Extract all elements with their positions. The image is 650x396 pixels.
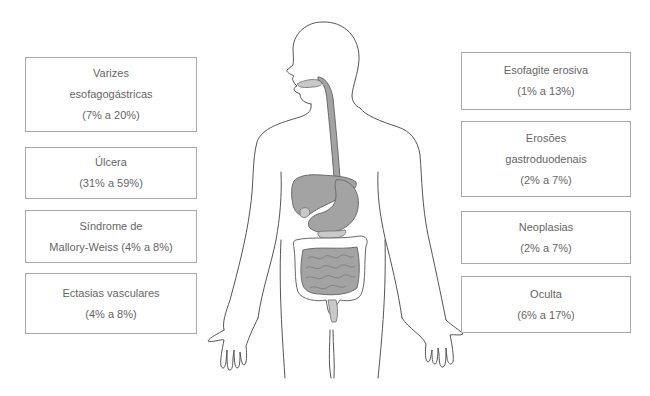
inner-left-arm [258,172,281,318]
torso-right-outline [360,108,446,320]
cause-label: Úlcera [95,152,127,173]
oral-cavity [297,80,322,88]
duodenum [318,230,346,238]
cause-percentage: (31% a 59%) [79,173,143,194]
crotch-line [329,330,334,378]
gallbladder [300,208,310,218]
cause-box-ectasias: Ectasias vasculares (4% a 8%) [25,273,197,334]
cause-label: gastroduodenais [505,149,586,170]
cause-percentage: (1% a 13%) [517,81,574,102]
cause-box-varizes: Varizes esofagogástricas (7% a 20%) [25,57,197,132]
cause-box-oculta: Oculta (6% a 17%) [461,276,631,333]
cause-label: Mallory-Weiss (4% a 8%) [49,237,172,258]
cause-label: Esofagite erosiva [504,60,588,81]
inner-right-arm [378,172,402,318]
cause-label: Varizes [93,63,129,84]
cause-percentage: (4% a 8%) [85,304,136,325]
right-hip-outline [378,240,385,378]
cause-label: Neoplasias [519,217,573,238]
cause-label: esofagogástricas [69,84,152,105]
cause-label: Oculta [530,284,562,305]
esophagus [318,77,340,178]
cause-percentage: (2% a 7%) [520,238,571,259]
cause-percentage: (7% a 20%) [82,105,139,126]
cause-percentage: (6% a 17%) [517,305,574,326]
cause-box-ulcera: Úlcera (31% a 59%) [25,147,197,199]
head-outline [287,22,360,108]
cause-box-neoplasias: Neoplasias (2% a 7%) [461,211,631,264]
cause-label: Erosões [526,128,566,149]
left-hip-outline [280,240,285,378]
cause-box-mallory-weiss: Síndrome de Mallory-Weiss (4% a 8%) [25,210,197,263]
torso-left-outline [223,104,311,330]
cause-percentage: (2% a 7%) [520,170,571,191]
cause-label: Síndrome de [80,216,143,237]
cause-box-esofagite: Esofagite erosiva (1% a 13%) [461,52,631,110]
small-intestine [301,247,359,295]
right-hand-outline [402,318,463,367]
left-hand-outline [208,318,258,370]
cause-box-erosoes: Erosões gastroduodenais (2% a 7%) [461,121,631,197]
cause-label: Ectasias vasculares [62,283,159,304]
rectum [328,300,338,322]
